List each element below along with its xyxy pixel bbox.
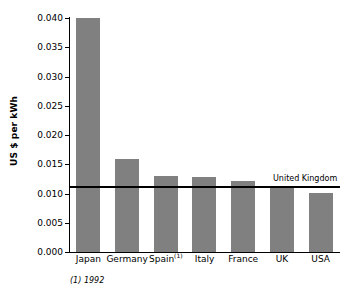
x-tick-label-usa: USA [311,254,330,264]
y-tick-label: 0.005 [37,218,63,228]
x-tick-label-uk: UK [276,254,289,264]
bars-layer [69,18,340,252]
bar-germany [115,159,139,252]
y-tick-mark [65,252,69,253]
y-tick-label: 0.035 [37,42,63,52]
bar-france [231,181,255,252]
bar-usa [309,193,333,252]
y-tick-label: 0.000 [37,247,63,257]
bar-chart-figure: US $ per kWh 0.0000.0050.0100.0150.0200.… [0,0,346,295]
y-tick-label: 0.025 [37,101,63,111]
y-tick-label: 0.040 [37,13,63,23]
reference-line-united-kingdom [69,186,340,188]
x-axis-labels: JapanGermanySpain(1)ItalyFranceUKUSA [69,254,340,270]
reference-line-label: United Kingdom [273,174,337,183]
x-tick-label-italy: Italy [195,254,215,264]
x-tick-label-germany: Germany [106,254,147,264]
x-tick-label-spain: Spain(1) [149,254,183,264]
x-tick-label-france: France [228,254,258,264]
x-tick-label-japan: Japan [76,254,101,264]
x-axis-line [69,252,340,253]
bar-italy [192,177,216,252]
y-tick-label: 0.010 [37,189,63,199]
y-tick-label: 0.020 [37,130,63,140]
bar-japan [76,18,100,252]
y-axis-title: US $ per kWh [9,86,19,176]
bar-uk [270,187,294,252]
plot-area: 0.0000.0050.0100.0150.0200.0250.0300.035… [69,18,340,252]
chart-footnote: (1) 1992 [70,276,104,285]
y-tick-label: 0.030 [37,72,63,82]
y-tick-label: 0.015 [37,159,63,169]
footnote-marker: (1) [174,252,183,259]
